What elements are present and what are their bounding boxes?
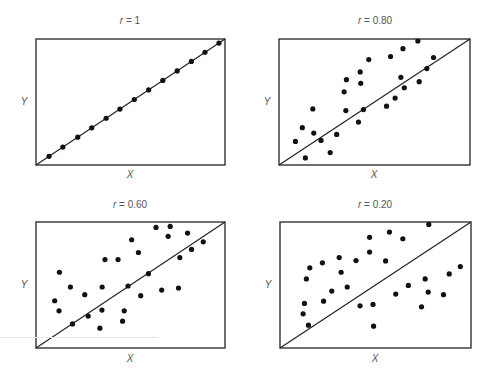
data-point — [306, 323, 311, 328]
data-point — [60, 145, 65, 150]
data-point — [177, 255, 182, 260]
data-point — [216, 40, 221, 45]
data-point — [117, 106, 122, 111]
data-point — [136, 250, 141, 255]
data-point — [366, 57, 371, 62]
data-point — [353, 258, 358, 263]
data-point — [419, 304, 424, 309]
data-point — [361, 107, 366, 112]
x-axis-label: X — [368, 353, 382, 364]
data-point — [189, 59, 194, 64]
regression-line — [280, 222, 471, 348]
data-point — [159, 287, 164, 292]
y-axis-label: Y — [17, 279, 31, 290]
data-point — [345, 284, 350, 289]
title-value: = 0.60 — [116, 199, 147, 210]
data-point — [46, 154, 51, 159]
chart-title: r = 0.20 — [315, 199, 435, 210]
data-point — [310, 106, 315, 111]
data-point — [367, 250, 372, 255]
data-point — [334, 132, 339, 137]
data-point — [337, 255, 342, 260]
chart-title: r = 1 — [70, 15, 190, 26]
data-point — [400, 236, 405, 241]
data-point — [56, 308, 61, 313]
data-point — [304, 276, 309, 281]
chart-title: r = 0.80 — [315, 15, 435, 26]
data-point — [104, 116, 109, 121]
data-point — [300, 125, 305, 130]
data-point — [370, 302, 375, 307]
data-point — [431, 55, 436, 60]
data-point — [423, 276, 428, 281]
data-point — [383, 258, 388, 263]
data-point — [384, 104, 389, 109]
data-point — [356, 119, 361, 124]
data-point — [344, 77, 349, 82]
title-value: = 0.80 — [361, 15, 392, 26]
data-point — [132, 97, 137, 102]
data-point — [86, 314, 91, 319]
scatter-plot — [36, 222, 225, 348]
data-point — [424, 66, 429, 71]
x-axis-label: X — [123, 169, 137, 180]
data-point — [320, 260, 325, 265]
data-point — [202, 50, 207, 55]
x-axis-label: X — [123, 353, 137, 364]
data-point — [160, 78, 165, 83]
data-point — [311, 131, 316, 136]
x-axis-label: X — [367, 169, 381, 180]
y-axis-label: Y — [260, 96, 274, 107]
data-point — [138, 293, 143, 298]
y-axis-label: Y — [261, 279, 275, 290]
data-point — [99, 307, 104, 312]
data-point — [400, 46, 405, 51]
data-point — [321, 299, 326, 304]
data-point — [301, 311, 306, 316]
data-point — [393, 95, 398, 100]
data-point — [57, 270, 62, 275]
data-point — [102, 257, 107, 262]
data-point — [125, 283, 130, 288]
data-point — [398, 75, 403, 80]
data-point — [329, 288, 334, 293]
data-point — [70, 321, 75, 326]
data-point — [458, 264, 463, 269]
data-point — [100, 284, 105, 289]
data-point — [357, 303, 362, 308]
data-point — [189, 247, 194, 252]
data-point — [393, 291, 398, 296]
data-point — [176, 285, 181, 290]
data-point — [417, 79, 422, 84]
data-point — [120, 319, 125, 324]
data-point — [367, 235, 372, 240]
data-point — [447, 271, 452, 276]
title-value: = 0.20 — [361, 199, 392, 210]
data-point — [307, 265, 312, 270]
data-point — [293, 139, 298, 144]
data-point — [441, 292, 446, 297]
data-point — [426, 222, 431, 227]
data-point — [168, 224, 173, 229]
data-point — [115, 257, 120, 262]
data-point — [129, 237, 134, 242]
data-point — [318, 138, 323, 143]
y-axis-label: Y — [17, 96, 31, 107]
scatter-plot — [36, 39, 225, 165]
data-point — [302, 301, 307, 306]
data-point — [75, 135, 80, 140]
data-point — [153, 225, 158, 230]
data-point — [185, 230, 190, 235]
data-point — [342, 89, 347, 94]
data-point — [303, 155, 308, 160]
data-point — [122, 308, 127, 313]
data-point — [371, 324, 376, 329]
data-point — [415, 38, 420, 43]
data-point — [52, 298, 57, 303]
data-point — [175, 68, 180, 73]
regression-line — [279, 39, 470, 165]
data-point — [402, 85, 407, 90]
scatter-plot — [279, 39, 470, 165]
data-point — [146, 87, 151, 92]
data-point — [328, 150, 333, 155]
